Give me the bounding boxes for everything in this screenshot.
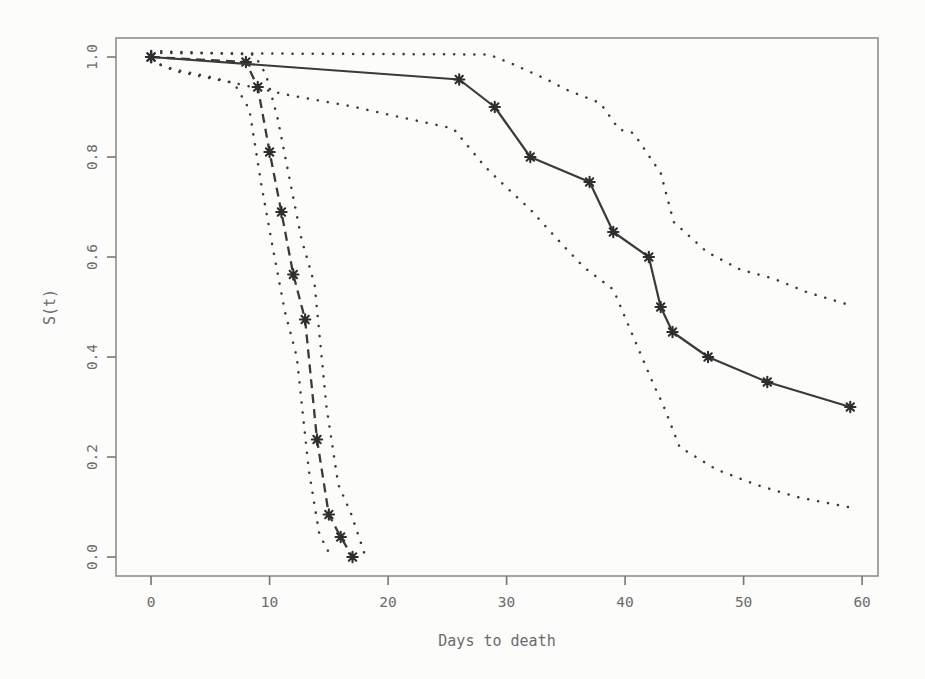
asterisk-marker: [644, 252, 654, 262]
series-group2-survival: [146, 52, 856, 412]
asterisk-marker: [264, 147, 274, 157]
x-tick-label: 60: [853, 594, 870, 610]
group1-survival-line: [151, 57, 352, 557]
x-axis-label: Days to death: [438, 632, 555, 650]
group1-ci-lower-line: [151, 62, 331, 557]
x-tick-label: 30: [498, 594, 515, 610]
y-tick-label: 0.8: [84, 144, 100, 170]
y-tick-label: 0.0: [84, 544, 100, 570]
asterisk-marker: [241, 57, 251, 67]
asterisk-marker: [335, 532, 345, 542]
x-tick-label: 50: [735, 594, 752, 610]
asterisk-marker: [525, 152, 535, 162]
asterisk-marker: [312, 434, 322, 444]
series-group1-ci-lower: [151, 62, 331, 557]
series-group1-survival: [146, 52, 358, 562]
asterisk-marker: [454, 74, 464, 84]
asterisk-marker: [276, 207, 286, 217]
x-tick-label: 10: [261, 594, 278, 610]
plot-area-border: [116, 38, 878, 576]
y-tick-label: 0.4: [84, 344, 100, 370]
group2-ci-lower-line: [161, 65, 848, 508]
x-axis-ticks: 0102030405060: [147, 576, 871, 610]
series-layer: [146, 51, 856, 562]
group1-ci-upper-line: [151, 51, 366, 557]
asterisk-marker: [324, 509, 334, 519]
y-tick-label: 0.6: [84, 244, 100, 270]
asterisk-marker: [667, 327, 677, 337]
y-axis-label: S(t): [41, 289, 59, 325]
y-axis-ticks: 0.00.20.40.60.81.0: [84, 44, 116, 570]
series-group1-ci-upper: [151, 51, 366, 557]
group2-ci-upper-line: [151, 53, 848, 305]
asterisk-marker: [608, 227, 618, 237]
y-tick-label: 0.2: [84, 444, 100, 470]
x-tick-label: 20: [379, 594, 396, 610]
asterisk-marker: [703, 352, 713, 362]
group2-survival-line: [151, 57, 850, 407]
asterisk-marker: [146, 52, 156, 62]
asterisk-marker: [288, 269, 298, 279]
asterisk-marker: [655, 302, 665, 312]
x-tick-label: 0: [147, 594, 156, 610]
scanned-figure-page: 0102030405060 0.00.20.40.60.81.0 Days to…: [0, 0, 925, 679]
y-tick-label: 1.0: [84, 44, 100, 70]
asterisk-marker: [300, 314, 310, 324]
x-tick-label: 40: [616, 594, 633, 610]
asterisk-marker: [347, 552, 357, 562]
series-group2-ci-lower: [161, 65, 848, 508]
asterisk-marker: [490, 102, 500, 112]
survival-plot: 0102030405060 0.00.20.40.60.81.0 Days to…: [0, 0, 925, 679]
asterisk-marker: [762, 377, 772, 387]
asterisk-marker: [845, 402, 855, 412]
series-group2-ci-upper: [151, 53, 848, 305]
asterisk-marker: [253, 82, 263, 92]
asterisk-marker: [584, 177, 594, 187]
